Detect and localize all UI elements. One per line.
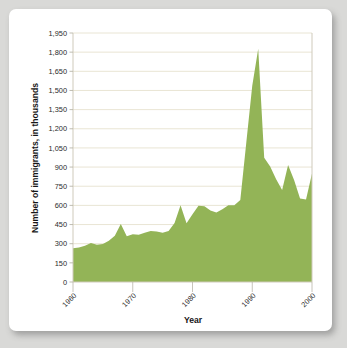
y-tick-label: 900	[55, 163, 67, 172]
area-series-immigrants	[73, 49, 312, 282]
y-tick-label: 300	[55, 239, 67, 248]
y-tick-label: 450	[55, 220, 67, 229]
x-axis-tick-labels: 19601970198019902000	[60, 282, 317, 309]
y-tick-label: 1,350	[49, 105, 68, 114]
chart-svg: 01503004506007509001,0501,2001,3501,5001…	[0, 0, 347, 348]
y-tick-label: 1,650	[49, 67, 68, 76]
y-axis-title: Number of immigrants, in thousands	[30, 83, 40, 233]
x-tick-label: 1960	[60, 291, 78, 309]
y-tick-label: 0	[63, 278, 67, 287]
screenshot-root: 01503004506007509001,0501,2001,3501,5001…	[0, 0, 347, 348]
x-tick-label: 2000	[299, 291, 317, 309]
y-tick-label: 600	[55, 201, 67, 210]
y-tick-label: 150	[55, 259, 67, 268]
y-axis-tick-labels: 01503004506007509001,0501,2001,3501,5001…	[49, 29, 74, 287]
y-tick-label: 1,500	[49, 86, 68, 95]
immigration-area-chart: 01503004506007509001,0501,2001,3501,5001…	[0, 0, 347, 348]
x-tick-label: 1970	[120, 291, 138, 309]
y-tick-label: 1,050	[49, 144, 68, 153]
y-tick-label: 1,200	[49, 124, 68, 133]
x-axis-title: Year	[184, 315, 203, 325]
y-tick-label: 750	[55, 182, 67, 191]
x-tick-label: 1990	[240, 291, 258, 309]
y-tick-label: 1,950	[49, 29, 68, 38]
x-tick-label: 1980	[180, 291, 198, 309]
y-tick-label: 1,800	[49, 48, 68, 57]
